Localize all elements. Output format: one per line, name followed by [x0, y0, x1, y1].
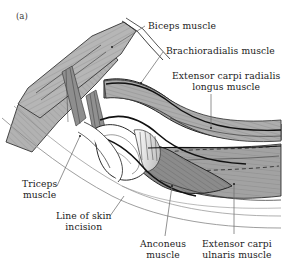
leader-line-brachioradialis	[141, 52, 163, 83]
label-biceps-muscle: Biceps muscle	[148, 21, 216, 32]
panel-letter: (a)	[16, 11, 28, 21]
elbow-anatomy-illustration	[0, 0, 291, 276]
label-extensor-carpi-ulnaris-muscle: Extensor carpiulnaris muscle	[202, 239, 272, 260]
label-triceps-muscle: Tricepsmuscle	[22, 179, 57, 200]
label-extensor-carpi-ulnaris-muscle-line-1: Extensor carpi	[202, 239, 272, 250]
leader-line-anconeus	[165, 186, 172, 236]
label-anconeus-muscle-line-1: Anconeus	[140, 239, 186, 250]
label-extensor-carpi-radialis-longus-muscle: Extensor carpi radialislongus muscle	[172, 71, 280, 92]
label-brachioradialis-muscle-line-1: Brachioradialis muscle	[166, 46, 275, 57]
label-anconeus-muscle: Anconeusmuscle	[140, 239, 186, 260]
label-line-of-skin-incision: Line of skinincision	[56, 211, 112, 232]
label-triceps-muscle-line-1: Triceps	[22, 179, 57, 190]
label-extensor-carpi-radialis-longus-muscle-line-2: longus muscle	[172, 82, 280, 93]
label-brachioradialis-muscle: Brachioradialis muscle	[166, 46, 275, 57]
label-anconeus-muscle-line-2: muscle	[140, 250, 186, 261]
leader-line-triceps	[57, 136, 80, 186]
label-extensor-carpi-ulnaris-muscle-line-2: ulnaris muscle	[202, 250, 272, 261]
leader-line-skin-incision	[110, 196, 124, 216]
label-line-of-skin-incision-line-1: Line of skin	[56, 211, 112, 222]
label-triceps-muscle-line-2: muscle	[22, 190, 57, 201]
label-line-of-skin-incision-line-2: incision	[56, 222, 112, 233]
anatomical-figure: (a) Biceps muscleBrachioradialis muscleE…	[0, 0, 291, 276]
label-biceps-muscle-line-1: Biceps muscle	[148, 21, 216, 32]
label-extensor-carpi-radialis-longus-muscle-line-1: Extensor carpi radialis	[172, 71, 280, 82]
